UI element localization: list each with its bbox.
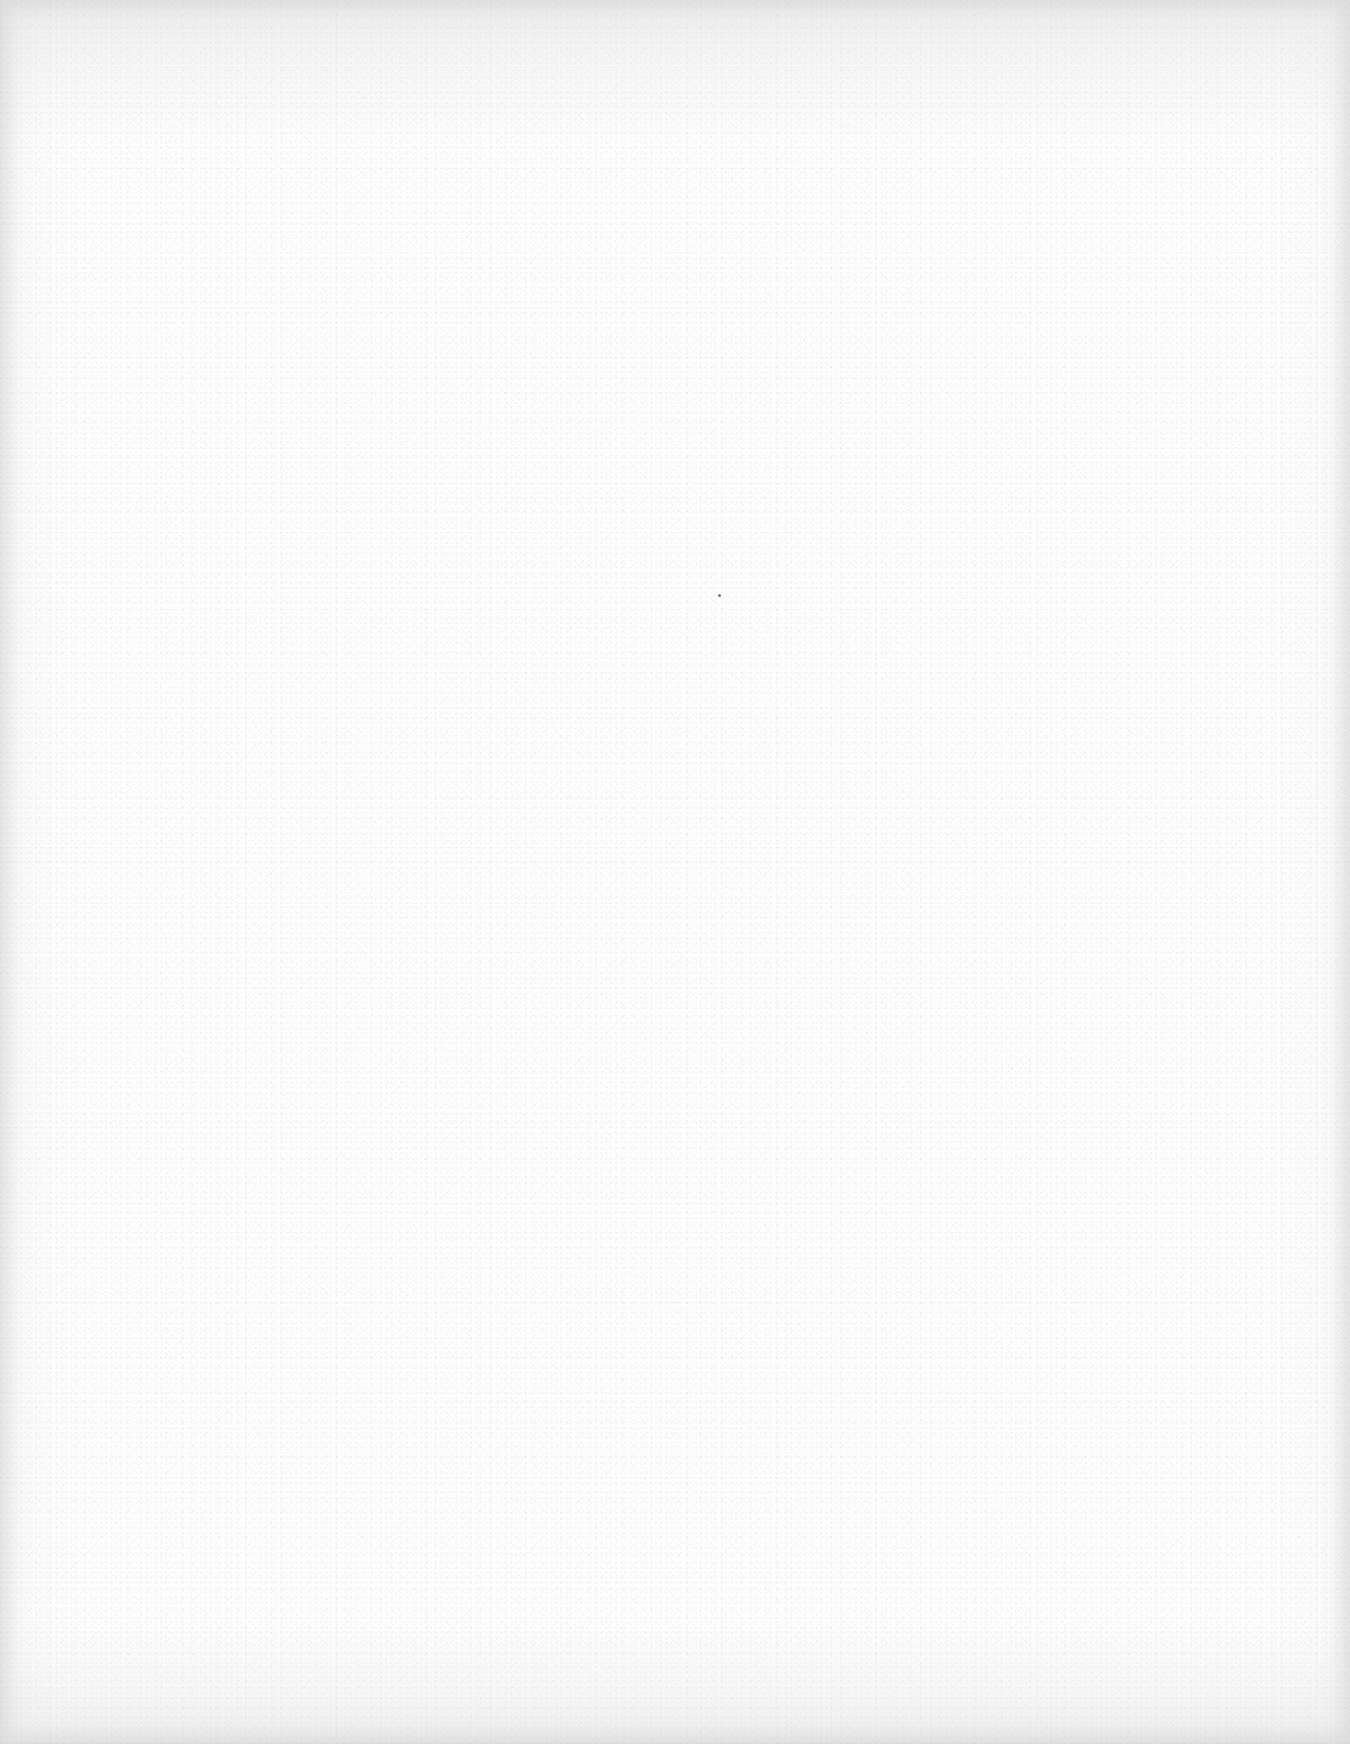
blank-scanned-page (0, 0, 1350, 1744)
bottom-edge-shading (0, 1624, 1350, 1744)
dust-speck (718, 594, 721, 597)
paper-grain-texture (0, 0, 1350, 1744)
top-edge-shading (0, 0, 1350, 140)
